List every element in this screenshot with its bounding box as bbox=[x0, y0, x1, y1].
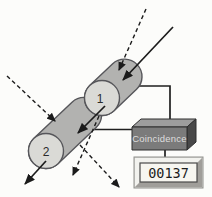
detector-2-label: 2 bbox=[43, 145, 50, 159]
coincidence-label: Coincidence bbox=[132, 133, 186, 144]
coincidence-box-top bbox=[132, 119, 196, 127]
counter-display: 00137 bbox=[134, 157, 203, 188]
detector-1-label: 1 bbox=[97, 92, 104, 106]
counter-value: 00137 bbox=[148, 165, 189, 181]
diagram-canvas: 2 1 Coincidence 00137 bbox=[0, 0, 212, 197]
coincidence-diagram: 2 1 Coincidence 00137 bbox=[0, 0, 212, 197]
coincidence-box: Coincidence bbox=[132, 119, 196, 150]
